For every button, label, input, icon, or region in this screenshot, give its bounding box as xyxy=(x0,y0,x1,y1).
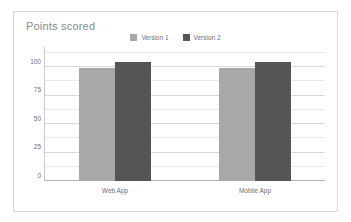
bar-web-app-version-2[interactable] xyxy=(115,62,151,181)
legend-item-version-2[interactable]: Version 2 xyxy=(183,34,221,41)
legend-swatch-version-1 xyxy=(130,34,137,41)
bar-mobile-app-version-1[interactable] xyxy=(219,68,255,181)
legend-swatch-version-2 xyxy=(183,34,190,41)
x-tick-label: Mobile App xyxy=(239,187,271,194)
legend-label-version-1: Version 1 xyxy=(141,34,168,41)
bar-web-app-version-1[interactable] xyxy=(79,68,115,181)
legend-label-version-2: Version 2 xyxy=(194,34,221,41)
y-tick-label: 0 xyxy=(37,171,41,178)
y-tick-label: 100 xyxy=(30,57,41,64)
bar-mobile-app-version-2[interactable] xyxy=(255,62,291,181)
chart-frame: Points scored Version 1 Version 2 025507… xyxy=(13,11,338,212)
plot-inner: 0255075100Web AppMobile App xyxy=(45,53,325,181)
chart-title: Points scored xyxy=(26,20,95,32)
y-tick-label: 75 xyxy=(34,86,41,93)
legend-item-version-1[interactable]: Version 1 xyxy=(130,34,168,41)
gridline xyxy=(45,52,325,53)
y-tick-label: 25 xyxy=(34,143,41,150)
chart-legend: Version 1 Version 2 xyxy=(14,34,337,41)
plot-area: 0255075100Web AppMobile App xyxy=(45,53,325,181)
y-tick-label: 50 xyxy=(34,114,41,121)
x-tick-label: Web App xyxy=(102,187,128,194)
